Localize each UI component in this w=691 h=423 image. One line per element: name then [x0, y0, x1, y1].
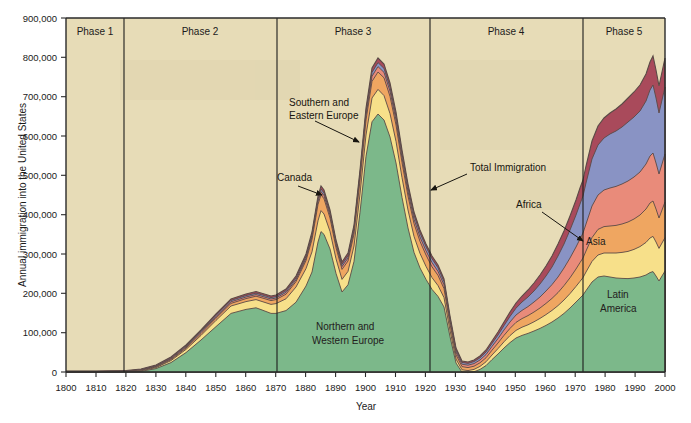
label-africa: Africa [516, 199, 542, 210]
phase-label-1: Phase 1 [77, 26, 114, 37]
x-tick-label: 1820 [115, 382, 136, 393]
y-tick-label: 200,000 [23, 288, 57, 299]
label-latin-america-line1: Latin [607, 289, 629, 300]
label-northern-western-europe-line2: Western Europe [312, 335, 385, 346]
label-asia: Asia [586, 236, 606, 247]
label-southern-eastern-europe-line2: Eastern Europe [289, 110, 359, 121]
x-tick-label: 1950 [505, 382, 526, 393]
y-tick-label: 900,000 [23, 13, 57, 24]
x-tick-label: 1900 [355, 382, 376, 393]
x-tick-label: 1940 [475, 382, 496, 393]
label-northern-western-europe-line1: Northern and [316, 321, 374, 332]
x-tick-label: 1880 [295, 382, 316, 393]
x-tick-label: 1930 [445, 382, 466, 393]
label-latin-america-line2: America [600, 303, 637, 314]
x-tick-label: 1970 [565, 382, 586, 393]
x-tick-label: 1920 [415, 382, 436, 393]
phase-label-5: Phase 5 [606, 26, 643, 37]
y-tick-label: 700,000 [23, 91, 57, 102]
x-tick-label: 1860 [235, 382, 256, 393]
x-axis-tick-labels: 1800 1810 1820 1830 1840 1850 1860 1870 … [55, 382, 675, 393]
immigration-area-chart: 900,000 800,000 700,000 600,000 500,000 … [0, 0, 691, 423]
label-canada: Canada [277, 172, 312, 183]
y-axis-title: Annual immigration into the United State… [17, 103, 28, 287]
x-tick-label: 1980 [595, 382, 616, 393]
y-tick-label: 100,000 [23, 327, 57, 338]
x-tick-label: 1850 [205, 382, 226, 393]
x-tick-label: 1830 [145, 382, 166, 393]
x-tick-label: 1800 [55, 382, 76, 393]
x-tick-label: 1960 [535, 382, 556, 393]
phase-label-4: Phase 4 [488, 26, 525, 37]
y-tick-label: 800,000 [23, 52, 57, 63]
y-tick-label: 0 [52, 367, 57, 378]
chart-container: 900,000 800,000 700,000 600,000 500,000 … [0, 0, 691, 423]
x-tick-label: 1910 [385, 382, 406, 393]
x-axis-title: Year [356, 401, 377, 412]
x-tick-label: 1990 [625, 382, 646, 393]
x-tick-label: 1840 [175, 382, 196, 393]
x-tick-label: 1870 [265, 382, 286, 393]
x-tick-label: 1890 [325, 382, 346, 393]
phase-label-2: Phase 2 [182, 26, 219, 37]
label-southern-eastern-europe-line1: Southern and [289, 97, 349, 108]
x-tick-label: 2000 [654, 382, 675, 393]
x-tick-label: 1810 [85, 382, 106, 393]
phase-label-3: Phase 3 [335, 26, 372, 37]
label-total-immigration: Total Immigration [470, 162, 546, 173]
x-axis-ticks [66, 372, 665, 377]
